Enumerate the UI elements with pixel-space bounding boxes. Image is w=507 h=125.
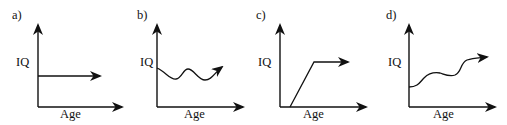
y-axis-label: IQ (388, 55, 401, 69)
x-axis-label: Age (303, 107, 324, 121)
iq-age-diagram: a) IQ Age b) IQ Age c) IQ Age d) IQ Age (0, 0, 507, 125)
x-axis-label: Age (433, 107, 454, 121)
panel-label: a) (12, 8, 22, 22)
x-axis-label: Age (60, 107, 81, 121)
y-axis-label: IQ (258, 55, 271, 69)
iq-curve-wavy (157, 67, 222, 80)
y-axis-label: IQ (140, 55, 153, 69)
panel-a: a) IQ Age (12, 8, 122, 121)
panel-label: c) (256, 8, 266, 22)
panel-label: b) (137, 8, 147, 22)
panel-c: c) IQ Age (256, 8, 366, 121)
iq-curve-increasing-wavy (409, 57, 487, 87)
panel-label: d) (386, 8, 396, 22)
x-axis-label: Age (184, 107, 205, 121)
iq-curve-rise-plateau (290, 62, 348, 107)
y-axis-label: IQ (16, 55, 29, 69)
panel-b: b) IQ Age (137, 8, 243, 121)
panel-d: d) IQ Age (386, 8, 495, 121)
